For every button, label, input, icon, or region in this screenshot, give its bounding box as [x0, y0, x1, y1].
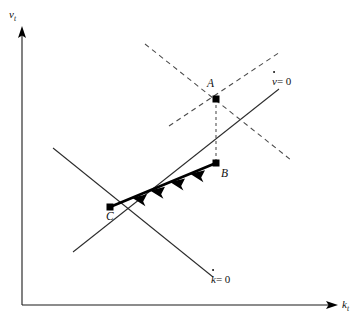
x-axis-label: kt	[342, 299, 349, 313]
y-axis-label: vt	[9, 9, 16, 23]
point-A-dot	[213, 96, 220, 103]
point-markers-group	[107, 96, 220, 211]
k-dot-symbol: k	[211, 274, 216, 285]
point-B-dot	[213, 160, 220, 167]
y-axis-label-sub: t	[14, 14, 16, 23]
k-dot-nullcline-label: k= 0	[211, 274, 230, 285]
point-C-label: C	[106, 211, 114, 223]
phase-diagram-figure: vt kt v= 0 k= 0 A B C	[0, 0, 364, 327]
point-A-label: A	[207, 78, 214, 90]
saddle-path-line	[110, 163, 216, 207]
k-dot-var: k	[211, 273, 216, 285]
k-dot-nullcline-line	[53, 148, 213, 277]
v-dot-nullcline-line	[73, 89, 279, 252]
k-dot-equals: = 0	[216, 273, 230, 285]
v-dot-symbol: v	[272, 76, 277, 87]
x-axis-label-sub: t	[347, 304, 349, 313]
v-dot-nullcline-label: v= 0	[272, 76, 291, 87]
saddle-path-group	[110, 163, 216, 207]
v-dot-equals: = 0	[277, 75, 291, 87]
shifted-v-dot-nullcline-line	[169, 52, 280, 126]
axes-group	[18, 26, 338, 309]
v-dot-var: v	[272, 75, 277, 87]
overdot-icon	[212, 269, 214, 271]
phase-diagram-canvas	[0, 0, 364, 327]
overdot-icon	[273, 71, 275, 73]
point-B-label: B	[221, 168, 228, 180]
